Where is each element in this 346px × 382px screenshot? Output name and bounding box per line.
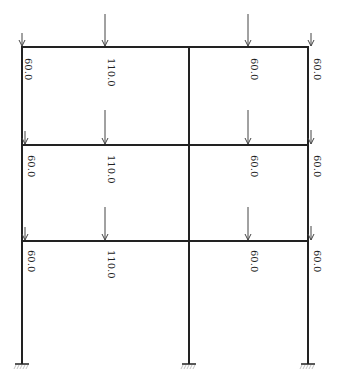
- left-fixed-support: [14, 364, 29, 369]
- load-arrow: [245, 207, 251, 240]
- load-value-label: 110.0: [106, 250, 117, 279]
- load-value-label: 60.0: [249, 58, 260, 80]
- load-value-label: 110.0: [106, 58, 117, 87]
- load-arrow: [102, 110, 108, 144]
- load-value-label: 60.0: [312, 155, 323, 177]
- load-arrow: [19, 33, 25, 46]
- load-value-label: 60.0: [312, 250, 323, 272]
- load-arrow: [102, 14, 108, 46]
- load-arrow: [308, 33, 314, 46]
- load-arrow: [245, 110, 251, 144]
- right-fixed-support: [300, 364, 315, 369]
- load-value-label: 60.0: [23, 58, 34, 80]
- load-value-label: 110.0: [106, 155, 117, 184]
- load-value-label: 60.0: [249, 155, 260, 177]
- load-value-label: 60.0: [26, 155, 37, 177]
- middle-fixed-support: [181, 364, 196, 369]
- load-arrow: [245, 14, 251, 46]
- load-value-label: 60.0: [312, 58, 323, 80]
- frame-diagram: 60.0110.060.060.060.0110.060.060.060.011…: [0, 0, 346, 382]
- load-value-label: 60.0: [26, 250, 37, 272]
- load-arrow: [102, 207, 108, 240]
- load-value-label: 60.0: [249, 250, 260, 272]
